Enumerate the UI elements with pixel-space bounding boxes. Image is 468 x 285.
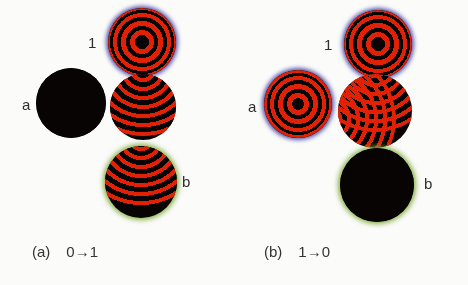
node-label-b-left: a — [248, 99, 257, 114]
caption-text: 1→0 — [298, 243, 330, 260]
bullseye-rings — [344, 10, 412, 78]
panel-a: a 1 b (a)0→1 — [0, 0, 234, 285]
caption-panel-a: (a)0→1 — [32, 244, 98, 259]
caption-tag: (b) — [264, 243, 282, 260]
bullseye-rings — [108, 8, 176, 76]
node-b-top — [344, 10, 412, 78]
caption-tag: (a) — [32, 243, 50, 260]
node-label-a-top: 1 — [88, 35, 97, 50]
node-b-left — [264, 70, 332, 138]
node-a-top — [108, 8, 176, 76]
caption-panel-b: (b)1→0 — [264, 244, 330, 259]
node-a-left — [36, 68, 106, 138]
node-b-center — [338, 74, 412, 148]
node-label-a-left: a — [22, 97, 31, 112]
node-a-bottom — [105, 146, 177, 218]
arc-fan-from-left — [338, 74, 396, 148]
node-label-a-bottom: b — [182, 174, 191, 189]
caption-text: 0→1 — [66, 243, 98, 260]
arc-fan-from-top — [110, 74, 176, 136]
bullseye-rings — [264, 70, 332, 138]
node-body — [340, 148, 414, 222]
node-label-b-bottom: b — [424, 176, 433, 191]
panel-b: a 1 b (b)1→0 — [234, 0, 468, 285]
node-body — [36, 68, 106, 138]
arc-fan-from-top — [105, 146, 177, 206]
node-b-bottom — [340, 148, 414, 222]
node-a-center — [110, 74, 176, 140]
figure-root: a 1 b (a)0→1 a 1 — [0, 0, 468, 285]
node-label-b-top: 1 — [324, 37, 333, 52]
